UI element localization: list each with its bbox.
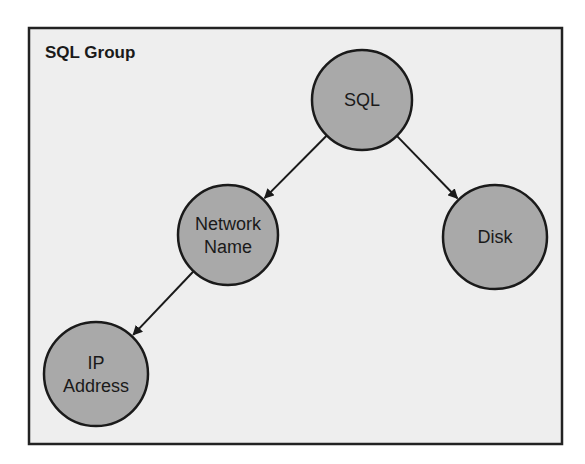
node-circle bbox=[178, 185, 278, 285]
node-circle bbox=[44, 322, 148, 426]
node-ip-address: IPAddress bbox=[44, 322, 148, 426]
node-network-name: NetworkName bbox=[178, 185, 278, 285]
dependency-diagram: SQL Group SQLNetworkNameDiskIPAddress bbox=[0, 0, 585, 464]
node-label: Disk bbox=[478, 227, 514, 247]
node-label: Name bbox=[204, 237, 252, 257]
group-title: SQL Group bbox=[45, 43, 135, 62]
node-label: Address bbox=[63, 376, 129, 396]
node-sql: SQL bbox=[312, 50, 412, 150]
node-label: Network bbox=[195, 214, 262, 234]
node-label: SQL bbox=[344, 90, 380, 110]
node-disk: Disk bbox=[443, 185, 547, 289]
node-label: IP bbox=[87, 353, 104, 373]
